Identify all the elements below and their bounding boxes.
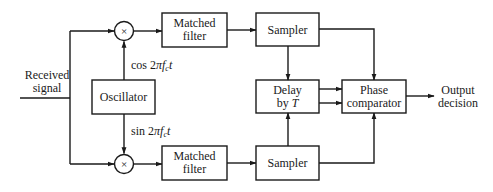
bottom-multiplier: × xyxy=(115,155,134,174)
matched-filter-label-line2: filter xyxy=(183,29,206,43)
received-signal-label-line2: signal xyxy=(33,81,62,95)
matched-filter-label-line1: Matched xyxy=(174,149,216,163)
matched-filter-label-line1: Matched xyxy=(174,16,216,30)
wire-top-sampler-to-comparator xyxy=(319,29,374,80)
phase-comparator-block: Phase comparator xyxy=(342,80,406,113)
bottom-matched-filter: Matched filter xyxy=(162,146,227,180)
phase-comparator-label-line2: comparator xyxy=(347,96,402,110)
output-label-line2: decision xyxy=(438,96,478,110)
matched-filter-label-line2: filter xyxy=(183,162,206,176)
multiply-icon: × xyxy=(121,25,127,37)
received-signal-label-line1: Received xyxy=(25,68,70,82)
sampler-label: Sampler xyxy=(268,23,308,37)
sampler-label: Sampler xyxy=(268,156,308,170)
bottom-sampler: Sampler xyxy=(256,146,319,180)
wire-bottom-sampler-to-comparator xyxy=(319,113,374,163)
phase-comparator-label-line1: Phase xyxy=(360,83,388,97)
sin-carrier-label: sin 2πfct xyxy=(131,124,171,139)
delay-label-line2: by T xyxy=(277,96,300,110)
output-label-line1: Output xyxy=(441,83,475,97)
cos-carrier-label: cos 2πfct xyxy=(131,58,173,73)
top-multiplier: × xyxy=(115,22,134,41)
top-sampler: Sampler xyxy=(256,13,319,46)
delay-block: Delay by T xyxy=(256,80,319,113)
top-matched-filter: Matched filter xyxy=(162,13,227,47)
dpsk-receiver-diagram: Received signal × × Oscillator cos 2πfct… xyxy=(0,0,493,192)
multiply-icon: × xyxy=(121,158,127,170)
oscillator-label: Oscillator xyxy=(100,90,147,104)
delay-label-line1: Delay xyxy=(273,83,302,97)
